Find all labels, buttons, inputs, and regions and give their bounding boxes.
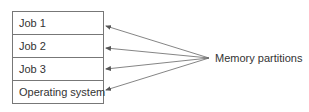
memory-partitions-label: Memory partitions xyxy=(215,51,302,65)
arrow-to-operating-system xyxy=(106,58,209,90)
arrow-to-job-3 xyxy=(106,58,209,69)
